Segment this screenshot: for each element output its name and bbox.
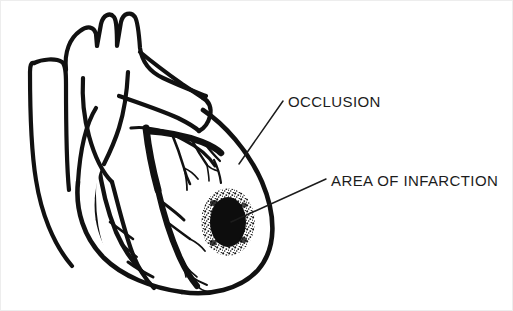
diagonal-branch-1b xyxy=(184,168,187,190)
svc-inner-wall xyxy=(34,59,69,190)
label-area-of-infarction: AREA OF INFARCTION xyxy=(331,172,498,189)
rca-twig-1 xyxy=(85,175,93,178)
pulmonary-trunk-lower xyxy=(119,96,199,131)
rca-twig-3 xyxy=(87,220,96,224)
pulmonary-trunk-upper xyxy=(140,52,203,98)
occluded-branch xyxy=(214,160,221,183)
rca-twig-2 xyxy=(85,198,94,202)
label-occlusion: OCCLUSION xyxy=(288,93,381,110)
lad-branch-2a xyxy=(190,239,205,251)
infarct-fleck-4 xyxy=(241,203,247,208)
figure-frame xyxy=(1,1,513,311)
lca-main-stem xyxy=(146,128,158,190)
infarct-fleck-3 xyxy=(210,240,217,246)
infarct-fleck-1 xyxy=(210,200,218,206)
diagram-canvas: OCCLUSION AREA OF INFARCTION xyxy=(0,0,513,311)
leader-line-occlusion xyxy=(239,101,283,164)
heart-infarction-figure: OCCLUSION AREA OF INFARCTION xyxy=(0,0,513,311)
infarction-zone xyxy=(201,188,255,256)
ascending-aorta-right-wall xyxy=(104,72,128,164)
infarct-fleck-2 xyxy=(239,237,247,243)
right-coronary-artery xyxy=(85,160,153,277)
